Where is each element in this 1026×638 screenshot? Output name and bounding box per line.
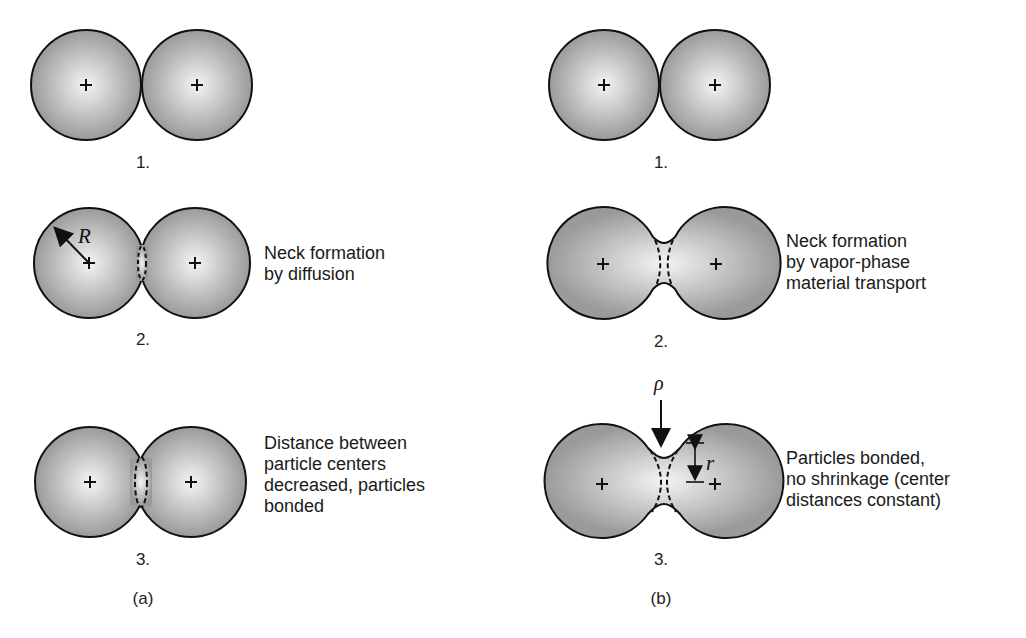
panel-b-label: (b)	[631, 589, 691, 609]
panel-b-stage-2-number: 2.	[631, 332, 691, 352]
panel-b-stage-2-particles	[547, 207, 780, 319]
panel-b-stage-2-caption: Neck formation by vapor-phase material t…	[786, 231, 926, 294]
panel-a-stage-3-particles	[35, 427, 246, 537]
panel-a-stage-2-particles	[34, 208, 250, 318]
panel-a-label: (a)	[113, 589, 173, 609]
radius-symbol-R: R	[78, 224, 91, 249]
panel-a-stage-2-number: 2.	[113, 330, 173, 350]
panel-a-stage-1-number: 1.	[113, 153, 173, 173]
panel-a-stage-1-particles	[31, 30, 252, 140]
neck-radius-symbol-r: r	[706, 451, 714, 476]
panel-b-stage-3-caption: Particles bonded, no shrinkage (center d…	[786, 448, 950, 511]
panel-a-stage-3-caption: Distance between particle centers decrea…	[264, 433, 425, 517]
sintering-diagram	[0, 0, 1026, 638]
neck-curvature-symbol-rho: ρ	[654, 372, 664, 395]
panel-b-stage-1-particles	[549, 30, 770, 140]
panel-a-stage-3-number: 3.	[113, 550, 173, 570]
panel-b-stage-3-particles	[545, 400, 784, 538]
panel-b-stage-1-number: 1.	[631, 153, 691, 173]
panel-b-stage-3-number: 3.	[631, 550, 691, 570]
panel-a-stage-2-caption: Neck formation by diffusion	[264, 243, 385, 285]
